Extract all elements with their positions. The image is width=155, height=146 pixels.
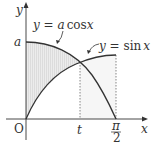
cos-label-leader [58, 31, 63, 42]
sin-curve-label: y = sinx [98, 39, 150, 53]
pi-denominator: 2 [113, 131, 121, 145]
sin-label-leader [89, 44, 99, 52]
light-region [80, 55, 116, 119]
sin-leader-arrow-icon [87, 50, 91, 54]
t-tick-label: t [77, 123, 82, 137]
x-axis-label: x [141, 122, 148, 136]
y-axis-label: y [15, 3, 23, 17]
origin-label: O [14, 122, 24, 136]
cos-curve-label: y = acosx [32, 18, 94, 32]
function-graph: y y = acosx y = sinx a O t π 2 x [0, 0, 155, 146]
a-tick-label: a [14, 35, 21, 49]
y-axis-arrow-icon [24, 2, 29, 8]
x-axis-arrow-icon [142, 117, 148, 122]
shaded-region [26, 42, 80, 119]
